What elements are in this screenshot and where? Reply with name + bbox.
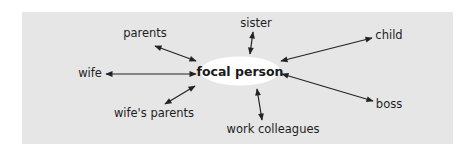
node-work-colleagues: work colleagues [226,124,319,136]
arrow-work-colleagues [257,89,262,120]
arrow-boss [282,74,373,101]
focal-person-label: focal person [196,66,283,79]
node-child: child [375,30,402,42]
arrow-parents [155,46,196,61]
arrow-wifes-parents [165,86,195,104]
arrow-child [281,38,372,61]
node-boss: boss [376,99,402,111]
node-parents: parents [123,28,167,40]
node-wifes-parents: wife's parents [114,108,194,120]
node-wife: wife [78,68,102,80]
arrow-sister [250,32,253,54]
node-sister: sister [240,18,272,30]
